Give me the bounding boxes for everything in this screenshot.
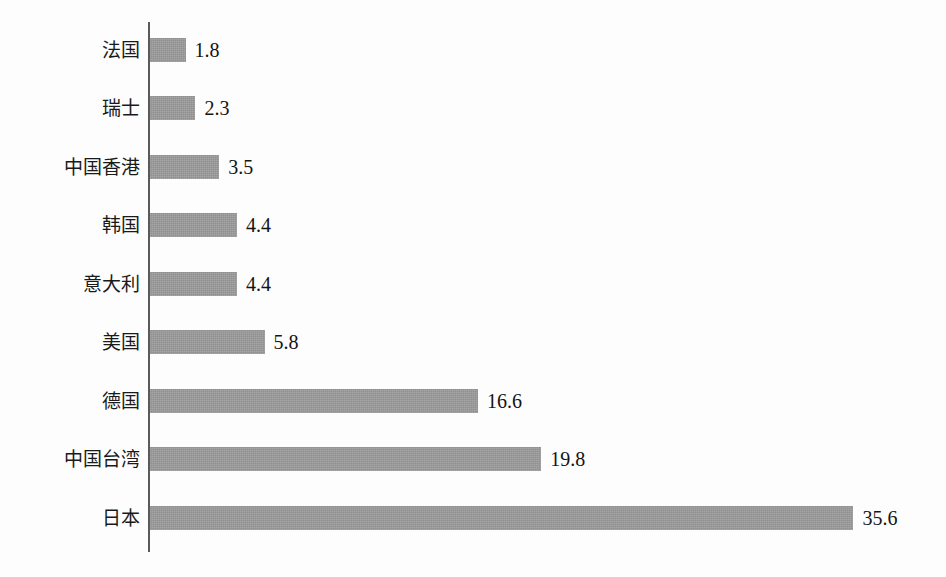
bar-row: 中国香港 3.5 [0,155,946,179]
bar [150,272,237,296]
bar-chart: 法国 1.8 瑞士 2.3 中国香港 3.5 韩国 4.4 意大利 4.4 [0,0,946,577]
bar-value-label: 3.5 [228,155,253,179]
category-label: 法国 [0,38,140,62]
bar-texture [150,213,237,237]
category-label: 瑞士 [0,96,140,120]
bar-texture [150,506,853,530]
bar-value-label: 19.8 [550,447,585,471]
bar-texture [150,272,237,296]
bar-row: 韩国 4.4 [0,213,946,237]
bar-texture [150,155,219,179]
bar-texture [150,330,265,354]
category-label: 中国台湾 [0,447,140,471]
bar [150,330,265,354]
bar [150,447,541,471]
bar [150,506,853,530]
bar [150,38,186,62]
bar-value-label: 1.8 [195,38,220,62]
bar-row: 法国 1.8 [0,38,946,62]
bar-value-label: 16.6 [487,389,522,413]
bar-value-label: 4.4 [246,213,271,237]
bar-value-label: 4.4 [246,272,271,296]
bar-texture [150,447,541,471]
bar-value-label: 5.8 [274,330,299,354]
bar [150,155,219,179]
category-label: 日本 [0,506,140,530]
bar [150,96,195,120]
bar-row: 美国 5.8 [0,330,946,354]
category-label: 德国 [0,389,140,413]
category-label: 中国香港 [0,155,140,179]
category-label: 韩国 [0,213,140,237]
bar-texture [150,389,478,413]
bar-texture [150,96,195,120]
bar [150,213,237,237]
bar-row: 日本 35.6 [0,506,946,530]
bar-row: 意大利 4.4 [0,272,946,296]
bar-value-label: 2.3 [204,96,229,120]
category-label: 美国 [0,330,140,354]
bar-texture [150,38,186,62]
bar-row: 中国台湾 19.8 [0,447,946,471]
bar-row: 瑞士 2.3 [0,96,946,120]
category-label: 意大利 [0,272,140,296]
bar-value-label: 35.6 [862,506,897,530]
bar [150,389,478,413]
chart-page: 法国 1.8 瑞士 2.3 中国香港 3.5 韩国 4.4 意大利 4.4 [0,0,946,577]
bar-row: 德国 16.6 [0,389,946,413]
